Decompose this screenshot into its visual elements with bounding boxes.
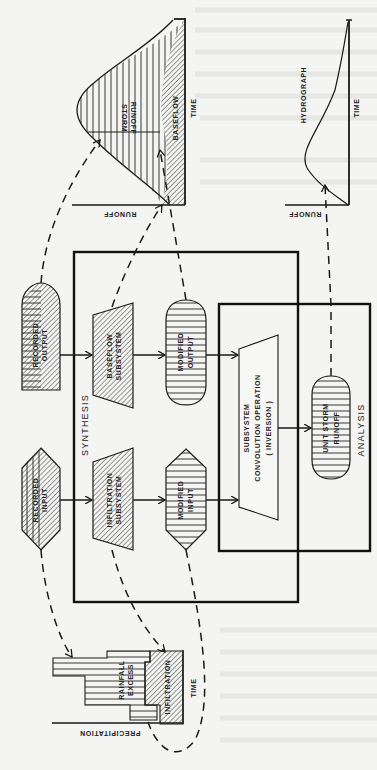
node-baseflow-subsystem: BASEFLOW SUBSYSTEM <box>93 303 133 408</box>
unit-runoff-label: RUNOFF <box>288 211 321 218</box>
svg-text:( INVERSION ): ( INVERSION ) <box>265 401 273 456</box>
svg-text:SUBSYSTEM: SUBSYSTEM <box>243 404 250 453</box>
runoff-axis-label: RUNOFF <box>103 211 136 218</box>
svg-text:RUNOFF: RUNOFF <box>333 411 340 444</box>
svg-text:INFILTRATION: INFILTRATION <box>106 473 113 528</box>
unit-time-label: TIME <box>353 98 360 117</box>
node-convolution-operation: SUBSYSTEM CONVOLUTION OPERATION ( INVERS… <box>239 335 278 520</box>
node-unit-storm-runoff: UNIT STORM RUNOFF <box>312 376 350 479</box>
node-recorded-input: RECORDED INPUT <box>22 448 60 550</box>
storm-label: STORM <box>121 104 128 132</box>
svg-text:MODIFIED: MODIFIED <box>177 332 184 371</box>
node-infiltration-subsystem: INFILTRATION SUBSYSTEM <box>93 448 133 550</box>
svg-text:INFILTRATION: INFILTRATION <box>164 660 171 715</box>
svg-text:TIME: TIME <box>190 678 197 697</box>
synthesis-label: SYNTHESIS <box>80 394 90 456</box>
svg-text:SUBSYSTEM: SUBSYSTEM <box>115 476 122 525</box>
svg-text:RECORDED: RECORDED <box>32 323 39 368</box>
svg-text:INPUT: INPUT <box>187 488 194 512</box>
hydrograph-title: HYDROGRAPH <box>300 67 307 124</box>
svg-text:PRECIPITATION: PRECIPITATION <box>80 730 141 737</box>
baseflow-label: BASEFLOW <box>172 96 179 141</box>
svg-text:EXCESS: EXCESS <box>127 664 134 696</box>
analysis-label: ANALYSIS <box>356 404 366 457</box>
node-modified-output: MODIFIED OUTPUT <box>166 300 206 405</box>
time-axis-label: TIME <box>190 98 197 117</box>
svg-text:SUBSYSTEM: SUBSYSTEM <box>115 332 122 381</box>
diagram-canvas: STORM RUNOFF BASEFLOW TIME RUNOFF HYDROG… <box>0 0 377 770</box>
svg-text:CONVOLUTION OPERATION: CONVOLUTION OPERATION <box>254 374 261 481</box>
runoff-region-label: RUNOFF <box>130 102 137 135</box>
svg-text:BASEFLOW: BASEFLOW <box>106 334 113 379</box>
svg-text:INPUT: INPUT <box>41 488 48 512</box>
svg-text:OUTPUT: OUTPUT <box>187 336 194 368</box>
node-modified-input: MODIFIED INPUT <box>166 449 206 550</box>
svg-text:OUTPUT: OUTPUT <box>41 329 48 361</box>
node-recorded-output: RECORDED OUTPUT <box>22 283 60 390</box>
svg-text:MODIFIED: MODIFIED <box>177 480 184 519</box>
storm-hydrograph: STORM RUNOFF BASEFLOW TIME RUNOFF <box>72 18 197 218</box>
precipitation-chart: RAINFALL EXCESS INFILTRATION TIME PRECIP… <box>52 650 197 737</box>
svg-text:RAINFALL: RAINFALL <box>118 660 125 700</box>
svg-text:RECORDED: RECORDED <box>32 478 39 523</box>
svg-text:UNIT STORM: UNIT STORM <box>322 403 329 452</box>
